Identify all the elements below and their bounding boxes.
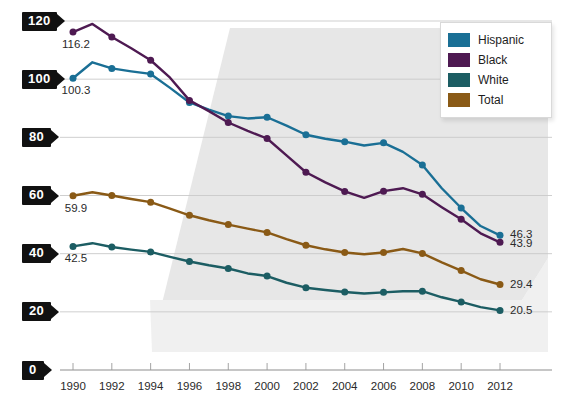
chart-container: 120100806040200 199019921994199619982000… [0,0,563,402]
y-axis-tick-20: 20 [22,302,51,322]
data-point [419,191,426,198]
x-axis-tick-label: 1990 [60,380,86,392]
y-axis-tick-100: 100 [22,69,57,89]
data-point [302,284,309,291]
data-point [458,298,465,305]
data-point [186,97,193,104]
data-point [419,250,426,257]
chart-legend: HispanicBlackWhiteTotal [440,22,552,118]
data-point [225,113,232,120]
x-axis-tick-label: 2004 [332,380,358,392]
y-axis-tick-label: 40 [22,244,51,263]
data-point [186,212,193,219]
data-point [302,169,309,176]
data-point [341,289,348,296]
start-value-label-black: 116.2 [62,38,90,50]
legend-item-hispanic[interactable]: Hispanic [448,30,543,50]
x-axis-tick-label: 1996 [177,380,203,392]
x-axis-tick-label: 2000 [254,380,280,392]
data-point [264,229,271,236]
x-axis-tick-label: 2010 [448,380,474,392]
start-value-label-white: 42.5 [65,252,87,264]
legend-item-total[interactable]: Total [448,90,543,110]
y-axis-tick-120: 120 [22,11,57,31]
data-point [147,57,154,64]
x-axis-tick-label: 2002 [293,380,319,392]
data-point [108,192,115,199]
y-axis-tick-label: 0 [22,361,44,380]
data-point [264,114,271,121]
y-axis-tick-label: 60 [22,186,51,205]
data-point [70,192,77,199]
data-point [419,288,426,295]
data-point [264,273,271,280]
data-point [380,289,387,296]
legend-label: Black [478,53,507,67]
data-point [458,216,465,223]
legend-swatch-white [448,73,470,87]
data-point [225,221,232,228]
data-point [380,249,387,256]
data-point [341,249,348,256]
x-axis-tick-label: 1994 [138,380,164,392]
data-point [186,258,193,265]
y-axis-tick-label: 100 [22,70,57,89]
y-axis-tick-label: 20 [22,302,51,321]
data-point [497,239,504,246]
data-point [147,248,154,255]
data-point [497,281,504,288]
legend-swatch-total [448,93,470,107]
legend-item-white[interactable]: White [448,70,543,90]
data-point [380,139,387,146]
data-point [302,131,309,138]
y-axis-tick-60: 60 [22,186,51,206]
x-axis-tick-label: 1992 [99,380,125,392]
data-point [458,267,465,274]
end-value-label-black: 43.9 [510,237,532,249]
x-axis-tick-label: 2008 [410,380,436,392]
y-axis-tick-40: 40 [22,244,51,264]
data-point [108,33,115,40]
y-axis-tick-80: 80 [22,127,51,147]
start-value-label-total: 59.9 [65,202,87,214]
data-point [70,75,77,82]
data-point [108,65,115,72]
data-point [341,188,348,195]
data-point [225,265,232,272]
data-point [302,242,309,249]
data-point [264,135,271,142]
data-point [147,199,154,206]
y-axis-tick-0: 0 [22,360,44,380]
data-point [108,243,115,250]
data-point [225,119,232,126]
data-point [419,161,426,168]
legend-swatch-black [448,53,470,67]
legend-label: Hispanic [478,33,524,47]
start-value-label-hispanic: 100.3 [62,84,91,96]
end-value-label-total: 29.4 [510,278,532,290]
data-point [458,205,465,212]
data-point [147,70,154,77]
data-point [380,188,387,195]
data-point [341,138,348,145]
data-point [70,243,77,250]
data-point [70,29,77,36]
x-axis-tick-label: 2006 [371,380,397,392]
end-value-label-white: 20.5 [510,304,532,316]
legend-item-black[interactable]: Black [448,50,543,70]
legend-label: Total [478,93,503,107]
x-axis-tick-label: 1998 [215,380,241,392]
data-point [497,232,504,239]
legend-label: White [478,73,509,87]
y-axis-tick-label: 120 [22,12,57,31]
x-axis-tick-label: 2012 [487,380,513,392]
legend-swatch-hispanic [448,33,470,47]
y-axis-tick-label: 80 [22,128,51,147]
data-point [497,307,504,314]
